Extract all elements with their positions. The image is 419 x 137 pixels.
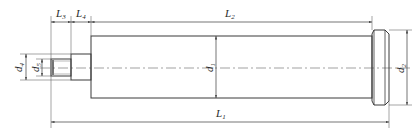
label-d2: d2 [394,64,408,74]
technical-drawing: L3 L4 L2 L1 d1 d4 d5 d2 [0,0,419,137]
collar-head [372,30,389,105]
label-d1: d1 [203,63,217,72]
label-L4: L4 [75,7,86,21]
threaded-end [51,59,71,76]
step-section [71,54,91,80]
label-L3: L3 [55,7,66,21]
label-d5: d5 [29,63,43,73]
label-d4: d4 [12,63,26,73]
label-L1: L1 [215,107,226,121]
label-L2: L2 [224,7,235,21]
main-body [91,36,372,98]
